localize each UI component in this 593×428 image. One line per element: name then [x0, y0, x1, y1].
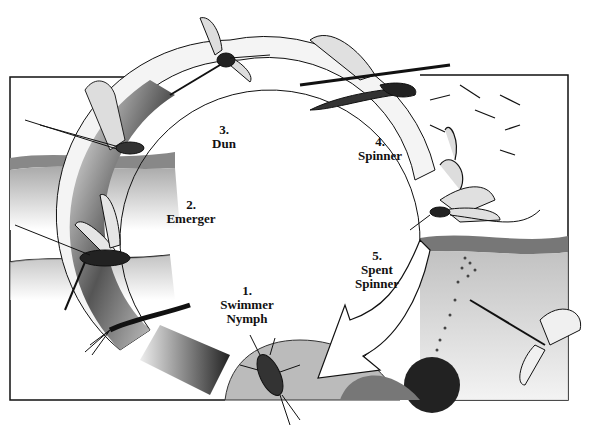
stage-name: Spinner	[350, 149, 410, 163]
spinner-swarm	[430, 85, 520, 190]
stage-label-emerger: 2. Emerger	[158, 198, 224, 226]
mayfly-life-cycle-diagram: 3. Dun 2. Emerger 4. Spinner 5. Spent Sp…	[0, 0, 593, 428]
right-frame-panel	[420, 75, 568, 400]
stage-number: 5.	[347, 249, 407, 263]
stage-name-line2: Spinner	[347, 277, 407, 291]
stage-name: Swimmer	[212, 298, 282, 312]
stage-name: Spent	[347, 263, 407, 277]
stage-label-spent-spinner: 5. Spent Spinner	[347, 249, 407, 291]
stage-label-swimmer-nymph: 1. Swimmer Nymph	[212, 284, 282, 326]
spinner-mayfly-mid-right	[410, 187, 540, 230]
stage-number: 3.	[199, 123, 249, 137]
stage-number: 4.	[350, 135, 410, 149]
stage-number: 1.	[212, 284, 282, 298]
stage-number: 2.	[158, 198, 224, 212]
stage-label-dun: 3. Dun	[199, 123, 249, 151]
stage-name-line2: Nymph	[212, 312, 282, 326]
spinner-mayfly-top-right	[300, 35, 450, 110]
stage-label-spinner: 4. Spinner	[350, 135, 410, 163]
stage-name: Emerger	[158, 212, 224, 226]
stage-name: Dun	[199, 137, 249, 151]
